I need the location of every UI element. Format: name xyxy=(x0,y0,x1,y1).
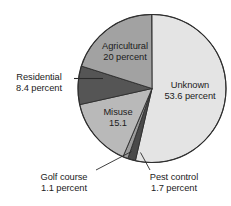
slice-label-unknown-name: Unknown xyxy=(156,80,224,91)
slice-label-pest-control-name: Pest control xyxy=(137,172,211,183)
slice-label-agricultural-value: 20 percent xyxy=(88,52,162,63)
slice-label-pest-control: Pest control 1.7 percent xyxy=(137,172,211,193)
slice-label-unknown: Unknown 53.6 percent xyxy=(156,80,224,101)
slice-label-golf-course: Golf course 1.1 percent xyxy=(28,172,100,193)
slice-label-misuse: Misuse 15.1 xyxy=(92,107,144,128)
slice-label-agricultural-name: Agricultural xyxy=(88,41,162,52)
pie-chart: Agricultural 20 percent Unknown 53.6 per… xyxy=(0,0,231,206)
slice-label-unknown-value: 53.6 percent xyxy=(156,91,224,102)
slice-label-residential-name: Residential xyxy=(4,72,74,83)
slice-label-golf-course-name: Golf course xyxy=(28,172,100,183)
slice-label-residential-value: 8.4 percent xyxy=(4,83,74,94)
leader-line-golf-course xyxy=(96,152,132,171)
slice-label-misuse-value: 15.1 xyxy=(92,118,144,129)
slice-label-agricultural: Agricultural 20 percent xyxy=(88,41,162,62)
slice-label-misuse-name: Misuse xyxy=(92,107,144,118)
slice-label-residential: Residential 8.4 percent xyxy=(4,72,74,93)
slice-label-pest-control-value: 1.7 percent xyxy=(137,183,211,194)
slice-label-golf-course-value: 1.1 percent xyxy=(28,183,100,194)
